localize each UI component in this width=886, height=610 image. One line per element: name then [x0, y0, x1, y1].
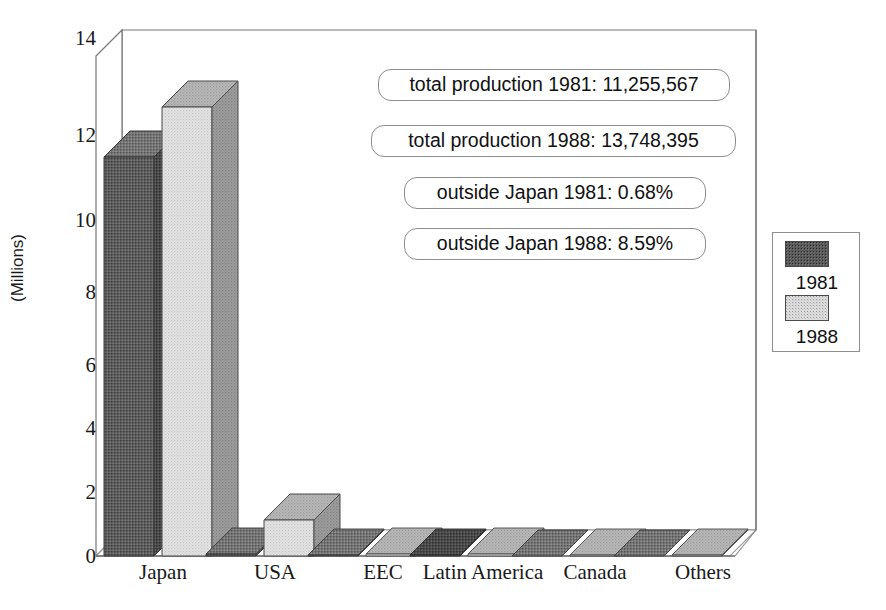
- annotation-total-production-1988: total production 1988: 13,748,395: [371, 125, 736, 157]
- y-tick-2: 2: [50, 482, 96, 503]
- y-tick-10: 10: [50, 210, 96, 231]
- legend: 1981 1988: [772, 232, 860, 352]
- y-tick-4: 4: [50, 418, 96, 439]
- x-tick-eec: EEC: [363, 560, 403, 585]
- y-tick-14: 14: [50, 28, 96, 49]
- y-tick-6: 6: [50, 355, 96, 376]
- y-tick-12: 12: [50, 125, 96, 146]
- plot-svg: [96, 26, 776, 586]
- legend-label-1988: 1988: [779, 327, 855, 346]
- y-axis: 14 12 10 8 6 4 2 0: [22, 0, 96, 610]
- annotation-total-production-1981: total production 1981: 11,255,567: [378, 69, 730, 101]
- chart-figure: 14 12 10 8 6 4 2 0 (Millions): [0, 0, 886, 610]
- x-tick-canada: Canada: [564, 560, 627, 585]
- y-tick-8: 8: [50, 282, 96, 303]
- x-axis: Japan USA EEC Latin America Canada Other…: [0, 560, 886, 600]
- legend-swatch-1988-icon: [785, 295, 829, 321]
- legend-swatch-1981-icon: [785, 241, 829, 267]
- y-axis-title: (Millions): [8, 198, 28, 338]
- annotation-outside-japan-1988: outside Japan 1988: 8.59%: [404, 228, 706, 260]
- x-tick-latin-america: Latin America: [423, 560, 544, 585]
- legend-label-1981: 1981: [779, 273, 855, 292]
- x-tick-japan: Japan: [139, 560, 187, 585]
- bar-japan-1988: [162, 81, 238, 556]
- plot-area: [96, 26, 756, 566]
- x-tick-usa: USA: [254, 560, 296, 585]
- x-tick-others: Others: [675, 560, 731, 585]
- annotation-outside-japan-1981: outside Japan 1981: 0.68%: [404, 177, 706, 209]
